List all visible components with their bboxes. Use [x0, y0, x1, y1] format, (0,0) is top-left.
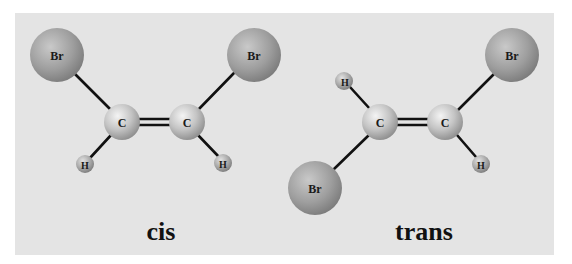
bond-c-br [458, 73, 495, 110]
cis-label: cis [147, 217, 176, 246]
trans-label: trans [395, 217, 453, 246]
svg-text:C: C [376, 116, 385, 130]
bond-c-h [90, 134, 112, 158]
isomer-diagram: Br Br C C H H cis [0, 0, 572, 264]
svg-text:H: H [81, 160, 89, 171]
atom-h: H [335, 72, 353, 90]
atom-br: Br [227, 28, 281, 82]
atom-h: H [472, 155, 490, 173]
bond-c-br [333, 135, 369, 170]
svg-text:Br: Br [50, 49, 64, 63]
atom-h: H [214, 154, 232, 172]
trans-molecule: H Br C C Br H trans [288, 28, 539, 246]
atom-c: C [104, 104, 140, 140]
atom-h: H [76, 155, 94, 173]
svg-text:H: H [219, 159, 227, 170]
svg-text:H: H [477, 160, 485, 171]
atom-br: Br [30, 28, 84, 82]
svg-text:H: H [341, 77, 349, 88]
svg-text:Br: Br [247, 49, 261, 63]
cis-molecule: Br Br C C H H cis [30, 28, 281, 246]
bond-c-h [457, 135, 476, 157]
svg-text:Br: Br [505, 49, 519, 63]
atom-br: Br [485, 28, 539, 82]
svg-text:C: C [183, 116, 192, 130]
bond-br-c [197, 73, 234, 111]
bond-br-c [74, 73, 112, 111]
atom-c: C [362, 104, 398, 140]
svg-text:C: C [118, 116, 127, 130]
atom-br: Br [288, 161, 342, 215]
atom-c: C [427, 104, 463, 140]
svg-text:Br: Br [308, 182, 322, 196]
bond-h-c [350, 87, 370, 109]
bond-c-h [197, 134, 219, 157]
svg-text:C: C [441, 116, 450, 130]
atom-c: C [169, 104, 205, 140]
